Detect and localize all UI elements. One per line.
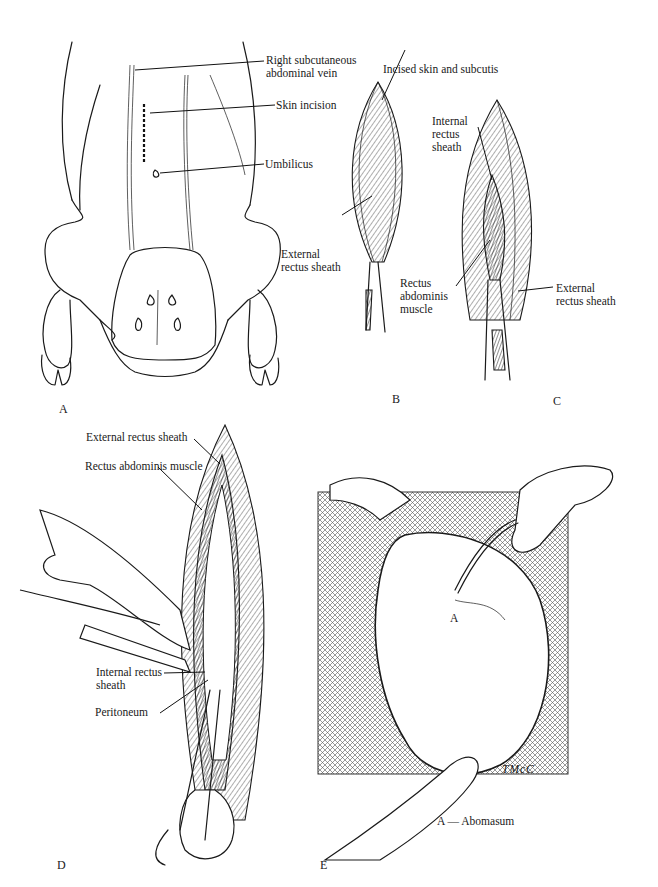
- label-incised-skin: Incised skin and subcutis: [383, 63, 498, 76]
- panel-a-cow-drawing: [42, 42, 281, 385]
- surgical-figure: Right subcutaneous abdominal vein Skin i…: [0, 0, 658, 887]
- label-skin-incision: Skin incision: [276, 99, 336, 112]
- label-internal-rectus-sheath-d: Internal rectus sheath: [96, 666, 162, 692]
- label-external-rectus-sheath-d: External rectus sheath: [86, 431, 188, 444]
- panel-d-layers-drawing: [20, 425, 264, 865]
- panel-letter-e: E: [320, 858, 327, 873]
- panel-letter-c: C: [553, 394, 561, 409]
- label-rectus-abdominis-d: Rectus abdominis muscle: [85, 460, 203, 473]
- label-rectus-abdominis-c: Rectus abdominis muscle: [400, 277, 448, 316]
- label-abdominal-vein: Right subcutaneous abdominal vein: [266, 54, 356, 80]
- panel-e-abomasum-drawing: [318, 466, 613, 860]
- panel-letter-d: D: [57, 858, 66, 873]
- panel-letter-a: A: [59, 402, 68, 417]
- artist-signature: TMcC: [502, 763, 535, 776]
- legend-abomasum: A — Abomasum: [437, 815, 514, 828]
- label-internal-rectus-sheath-c: Internal rectus sheath: [432, 115, 468, 154]
- label-peritoneum: Peritoneum: [95, 706, 148, 719]
- label-organ-marker-a: A: [450, 612, 458, 625]
- label-umbilicus: Umbilicus: [265, 158, 313, 171]
- panel-c-rectus-drawing: [456, 100, 553, 380]
- label-external-rectus-sheath-c: External rectus sheath: [556, 282, 616, 308]
- panel-letter-b: B: [392, 392, 400, 407]
- panel-b-incision-drawing: [342, 50, 405, 332]
- label-external-rectus-sheath-b: External rectus sheath: [281, 248, 341, 274]
